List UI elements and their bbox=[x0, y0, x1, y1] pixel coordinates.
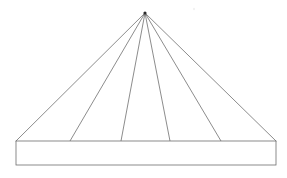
base-bar bbox=[16, 141, 276, 165]
fan-diagram-svg bbox=[0, 0, 287, 178]
stray-mark bbox=[193, 8, 195, 10]
apex-point bbox=[143, 11, 146, 14]
figure-canvas: Fan of lines from apex to horizontal bar bbox=[0, 0, 287, 178]
